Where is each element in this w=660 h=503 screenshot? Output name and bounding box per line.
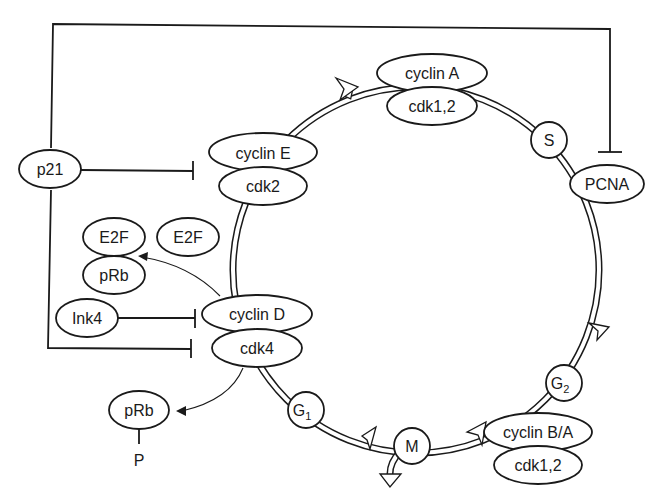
e2f-prb-complex[interactable]: E2F pRb: [83, 218, 145, 294]
cyclinD-complex[interactable]: cyclin D cdk4: [202, 295, 312, 367]
cyclinD-e2f-activation: [138, 252, 220, 296]
cdk4-prb-phosphorylation: [176, 368, 243, 416]
p21-label: p21: [37, 161, 64, 178]
cyclinE-label: cyclin E: [235, 145, 290, 162]
cyclinE-complex[interactable]: cyclin E cdk2: [209, 133, 317, 205]
prb-bound-label: pRb: [99, 267, 128, 284]
cyclinD-label: cyclin D: [229, 306, 285, 323]
phase-m[interactable]: M: [394, 428, 430, 464]
phase-m-label: M: [405, 438, 418, 455]
cell-cycle-diagram: p21 cyclin A cdk1,2 S PCNA cyclin E cdk2…: [0, 0, 660, 503]
cyclinD-cdk-label: cdk4: [240, 340, 274, 357]
phosphate-label: P: [134, 452, 145, 469]
cyclinA-label: cyclin A: [405, 65, 460, 82]
ink4-node[interactable]: Ink4: [56, 299, 118, 337]
e2f-free-node[interactable]: E2F: [157, 218, 219, 256]
e2f-bound-label: E2F: [99, 229, 129, 246]
e2f-free-label: E2F: [173, 229, 203, 246]
phase-s[interactable]: S: [531, 122, 567, 158]
cyclinBA-complex[interactable]: cyclin B/A cdk1,2: [484, 413, 592, 484]
cyclinBA-cdk-label: cdk1,2: [514, 457, 561, 474]
pcna-label: PCNA: [585, 176, 630, 193]
cyclinA-cdk-label: cdk1,2: [408, 98, 455, 115]
phase-s-label: S: [544, 132, 555, 149]
p21-cyclinE-inhibition: [81, 161, 193, 180]
prb-phospho-node[interactable]: pRb P: [109, 391, 169, 469]
p21-node[interactable]: p21: [19, 150, 81, 188]
cyclinBA-label: cyclin B/A: [503, 424, 574, 441]
ink4-cyclinD-inhibition: [118, 309, 195, 328]
prb-phospho-label: pRb: [124, 402, 153, 419]
phase-g1[interactable]: G1: [288, 392, 324, 428]
ink4-label: Ink4: [72, 310, 102, 327]
cyclinE-cdk-label: cdk2: [246, 178, 280, 195]
phase-g2[interactable]: G2: [546, 365, 582, 401]
pcna-node[interactable]: PCNA: [570, 165, 644, 203]
